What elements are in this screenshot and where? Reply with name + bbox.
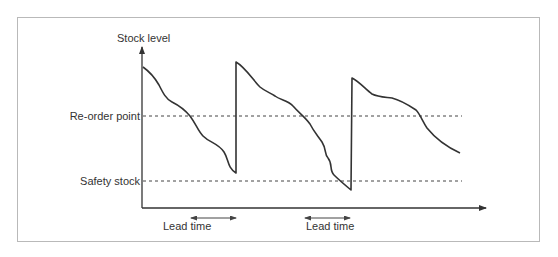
- stock-level-diagram: [0, 0, 558, 257]
- reorder-point-label: Re-order point: [70, 110, 140, 123]
- safety-stock-label: Safety stock: [80, 175, 140, 188]
- lead-time-label-2: Lead time: [306, 220, 354, 233]
- lead-time-label-1: Lead time: [163, 220, 211, 233]
- stock-level-curve: [143, 62, 460, 190]
- y-axis-label: Stock level: [117, 32, 170, 45]
